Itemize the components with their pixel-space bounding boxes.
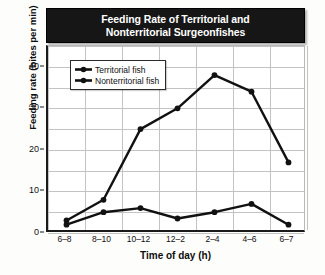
x-axis-label: Time of day (h) — [46, 250, 305, 261]
chart-legend: Territorial fish Nonterritorial fish — [70, 60, 166, 90]
x-tick-label: 6–8 — [57, 234, 71, 244]
y-tick-mark — [40, 107, 44, 108]
data-point — [286, 160, 292, 166]
chart-figure: Feeding Rate of Territorial and Nonterri… — [0, 0, 325, 275]
y-axis-ticks: 010203040 — [0, 45, 44, 232]
data-point — [249, 89, 255, 95]
legend-marker-icon — [75, 76, 92, 85]
chart-title-line-1: Feeding Rate of Territorial and — [101, 13, 249, 25]
x-tick-label: 2–4 — [205, 234, 219, 244]
gridline-vertical — [307, 46, 308, 230]
data-point — [286, 222, 292, 228]
x-tick-label: 10–12 — [127, 234, 151, 244]
series-line — [67, 204, 289, 225]
x-axis-ticks: 6–88–1010–1212–22–44–66–7 — [46, 234, 305, 248]
x-tick-label: 6–7 — [279, 234, 293, 244]
legend-label: Territorial fish — [95, 65, 146, 75]
data-point — [212, 72, 218, 78]
y-tick-mark — [40, 232, 44, 233]
data-point — [101, 209, 107, 215]
legend-marker-icon — [75, 65, 92, 74]
series-line — [67, 75, 289, 220]
legend-label: Nonterritorial fish — [95, 76, 159, 86]
x-tick-label: 12–2 — [166, 234, 185, 244]
data-point — [64, 218, 70, 224]
x-tick-label: 8–10 — [92, 234, 111, 244]
legend-item-territorial-fish: Territorial fish — [75, 64, 159, 75]
y-tick-label: 10 — [29, 185, 39, 195]
y-tick-mark — [40, 190, 44, 191]
data-point — [138, 205, 144, 211]
data-point — [249, 201, 255, 207]
y-tick-label: 0 — [34, 227, 39, 237]
data-point — [101, 197, 107, 203]
y-tick-label: 30 — [29, 102, 39, 112]
chart-title: Feeding Rate of Territorial and Nonterri… — [97, 13, 253, 38]
y-tick-label: 40 — [29, 61, 39, 71]
y-tick-label: 20 — [29, 144, 39, 154]
chart-title-line-2: Nonterritorial Surgeonfishes — [106, 26, 246, 38]
chart-title-banner: Feeding Rate of Territorial and Nonterri… — [46, 8, 305, 43]
data-point — [175, 105, 181, 111]
data-point — [212, 209, 218, 215]
y-tick-mark — [40, 148, 44, 149]
y-tick-mark — [40, 65, 44, 66]
legend-item-nonterritorial-fish: Nonterritorial fish — [75, 75, 159, 86]
x-tick-label: 4–6 — [242, 234, 256, 244]
data-point — [175, 216, 181, 222]
data-point — [138, 126, 144, 132]
